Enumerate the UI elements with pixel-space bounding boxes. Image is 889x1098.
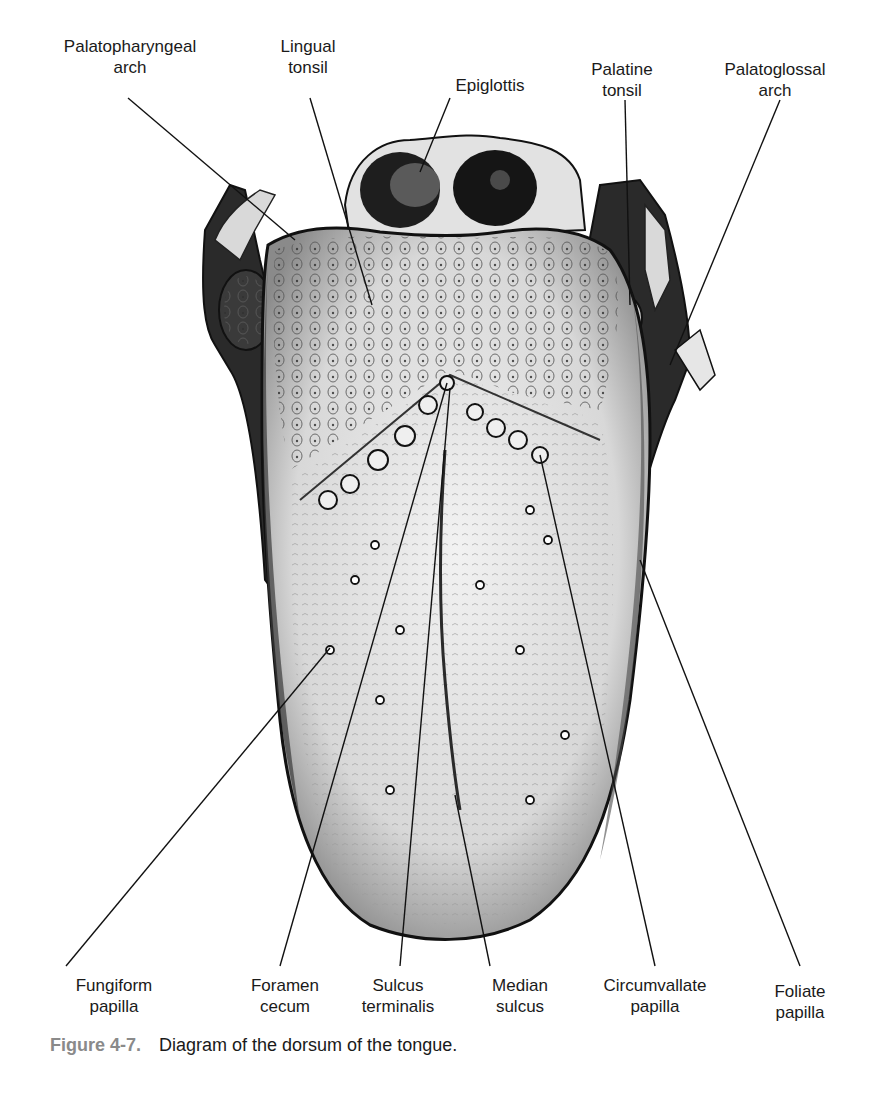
label-fungiform-papilla: Fungiform papilla — [76, 975, 153, 1017]
label-palatopharyngeal-arch: Palatopharyngeal arch — [64, 36, 196, 78]
figure-number: Figure 4-7. — [50, 1035, 141, 1055]
label-palatoglossal-arch: Palatoglossal arch — [724, 59, 825, 101]
caption-text: Diagram of the dorsum of the tongue. — [159, 1035, 457, 1055]
label-circumvallate-papilla: Circumvallate papilla — [604, 975, 707, 1017]
epiglottis-region — [345, 135, 585, 240]
label-epiglottis: Epiglottis — [456, 75, 525, 96]
label-palatine-tonsil: Palatine tonsil — [591, 59, 652, 101]
tongue-diagram-figure: Palatopharyngeal arch Lingual tonsil Epi… — [0, 0, 889, 1098]
label-foliate-papilla: Foliate papilla — [774, 981, 825, 1023]
label-foramen-cecum: Foramen cecum — [251, 975, 319, 1017]
label-lingual-tonsil: Lingual tonsil — [281, 36, 336, 78]
label-sulcus-terminalis: Sulcus terminalis — [362, 975, 435, 1017]
tongue-body — [262, 228, 650, 940]
tongue-illustration — [0, 0, 889, 1098]
figure-caption: Figure 4-7.Diagram of the dorsum of the … — [50, 1035, 457, 1056]
label-median-sulcus: Median sulcus — [492, 975, 548, 1017]
